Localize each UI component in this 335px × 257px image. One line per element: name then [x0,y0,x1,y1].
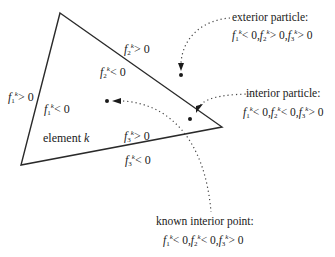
label-f3-inside: f3k> 0 [124,127,150,147]
known-interior-point-dot [105,99,109,103]
label-f3-outside: f3k< 0 [125,151,151,171]
label-f1-outside: f1k> 0 [8,88,34,108]
exterior-title: exterior particle: [232,11,308,24]
exterior-particle-dot [179,73,183,77]
element-label: element k [43,132,89,145]
index: 2 [274,112,278,120]
label-f2-inside: f2k< 0 [100,63,126,83]
known-point-conditions: f1k< 0,f2k< 0,f3k> 0 [163,231,244,251]
relation: > 0 [297,29,312,41]
index: 3 [291,35,295,43]
index: 2 [127,49,131,57]
index: 1 [47,109,51,117]
index: 1 [235,35,239,43]
relation: < 0 [54,102,70,116]
interior-title: interior particle: [246,87,320,100]
index: 3 [128,160,132,168]
index: 1 [11,97,15,105]
exterior-conditions: f1k< 0,f2k> 0,f3k> 0 [232,26,313,46]
known-point-title: known interior point: [156,215,254,228]
relation: < 0, [281,106,299,118]
relation: > 0 [134,129,150,143]
relation: > 0 [134,42,150,56]
element-word: element [43,131,81,145]
exterior-arrowhead-icon [178,63,184,71]
known-point-arrowhead-icon [112,98,121,104]
relation: > 0, [270,29,288,41]
index: 1 [246,112,250,120]
label-f2-outside: f2k> 0 [124,40,150,60]
index: 2 [263,35,267,43]
relation: < 0, [173,234,191,246]
index: 2 [194,240,198,248]
relation: > 0 [18,90,34,104]
label-f1-inside: f1k< 0 [44,100,70,120]
index: 2 [103,72,107,80]
relation: > 0 [228,234,243,246]
relation: < 0 [135,153,151,167]
interior-particle-dot [188,117,192,121]
index: 1 [166,240,170,248]
relation: < 0, [201,234,219,246]
exterior-leader-curve [181,18,230,63]
interior-conditions: f1k< 0,f2k< 0,f3k> 0 [243,103,324,123]
index: 3 [127,136,131,144]
relation: < 0, [253,106,271,118]
relation: < 0, [242,29,260,41]
index: 3 [302,112,306,120]
relation: < 0 [110,65,126,79]
index: 3 [222,240,226,248]
element-index: k [84,131,89,145]
relation: > 0 [308,106,323,118]
